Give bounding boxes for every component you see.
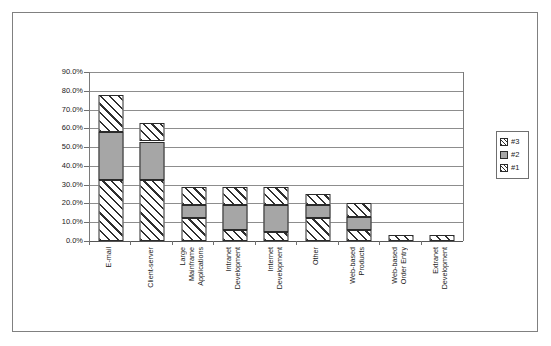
bar-slot: [256, 72, 297, 241]
bar-segment-series-3[interactable]: [430, 235, 455, 241]
legend-label: #2: [511, 151, 519, 159]
x-axis-category-label: Web-basedOrder Entry: [391, 247, 409, 331]
bar-segment-series-1[interactable]: [181, 218, 206, 241]
plot-area: [89, 72, 464, 241]
bar-slot: [380, 72, 421, 241]
x-axis-category-label: IntranetDevelopment: [225, 247, 243, 331]
y-axis-tick-label: 70.0%: [37, 106, 83, 114]
bar-slot: [297, 72, 338, 241]
bar-segment-series-3[interactable]: [347, 203, 372, 216]
x-axis-category-label: Client-server: [147, 247, 156, 331]
legend-label: #3: [511, 138, 519, 146]
bar-segment-series-1[interactable]: [140, 180, 165, 241]
y-axis-tick-label: 90.0%: [37, 68, 83, 76]
bar-segment-series-3[interactable]: [98, 95, 123, 133]
y-axis-tick-label: 50.0%: [37, 143, 83, 151]
x-axis-tick-mark: [172, 241, 173, 245]
bar-segment-series-3[interactable]: [140, 123, 165, 142]
bar-segment-series-3[interactable]: [388, 235, 413, 241]
x-axis-category-label: LargeMainframeApplications: [179, 247, 206, 331]
bar-segment-series-2[interactable]: [140, 142, 165, 180]
x-axis-label-line: Order Entry: [400, 247, 408, 284]
bar-slot: [422, 72, 463, 241]
x-axis-tick-mark: [213, 241, 214, 245]
y-axis-tick-label: 10.0%: [37, 218, 83, 226]
x-axis-label-line: Client-server: [147, 247, 155, 288]
x-axis-tick-mark: [130, 241, 131, 245]
y-axis-tick-label: 80.0%: [37, 87, 83, 95]
x-axis-label-line: Applications: [197, 247, 205, 286]
bar-segment-series-1[interactable]: [223, 230, 248, 241]
legend-swatch-icon: [500, 151, 508, 159]
gridline: [90, 241, 463, 242]
legend-label: #1: [511, 164, 519, 172]
bar-segment-series-1[interactable]: [264, 232, 289, 241]
x-axis-tick-mark: [89, 241, 90, 245]
bar-segment-series-3[interactable]: [181, 187, 206, 206]
x-axis-label-line: Web-based: [391, 247, 399, 284]
legend-swatch-icon: [500, 138, 508, 146]
y-axis-tick-label: 20.0%: [37, 199, 83, 207]
x-axis-label-line: Development: [234, 247, 242, 289]
legend-item-series-1[interactable]: #1: [500, 162, 525, 174]
bar-segment-series-3[interactable]: [305, 194, 330, 205]
x-axis-tick-mark: [296, 241, 297, 245]
x-axis-tick-mark: [338, 241, 339, 245]
x-axis-label-line: Internet: [267, 247, 275, 271]
chart-legend[interactable]: #3#2#1: [496, 131, 529, 179]
bar-segment-series-2[interactable]: [223, 205, 248, 229]
x-axis-category-label: Other: [312, 247, 321, 331]
bar-segment-series-2[interactable]: [264, 205, 289, 231]
bar-segment-series-1[interactable]: [305, 218, 330, 241]
y-axis-tick-label: 30.0%: [37, 181, 83, 189]
bar-segment-series-3[interactable]: [223, 187, 248, 206]
bar-slot: [214, 72, 255, 241]
x-axis-category-label: E-mail: [105, 247, 114, 331]
x-axis-category-label: Web-basedProducts: [349, 247, 367, 331]
x-axis-label-line: Other: [312, 247, 320, 265]
legend-item-series-3[interactable]: #3: [500, 136, 525, 148]
bar-slot: [339, 72, 380, 241]
y-axis-tick-label: 60.0%: [37, 124, 83, 132]
x-axis-tick-mark: [379, 241, 380, 245]
bar-segment-series-2[interactable]: [98, 132, 123, 180]
x-axis-category-label: ExtranetDevelopment: [432, 247, 450, 331]
bar-slot: [131, 72, 172, 241]
x-axis-tick-mark: [255, 241, 256, 245]
bar-slot: [173, 72, 214, 241]
bar-segment-series-2[interactable]: [181, 205, 206, 218]
x-axis-category-label: InternetDevelopment: [267, 247, 285, 331]
bar-segment-series-1[interactable]: [347, 230, 372, 241]
legend-swatch-icon: [500, 164, 508, 172]
x-axis-label-line: Intranet: [225, 247, 233, 271]
chart-frame: 90.0%80.0%70.0%60.0%50.0%40.0%30.0%20.0%…: [12, 12, 538, 332]
x-axis-label-line: E-mail: [105, 247, 113, 267]
bar-segment-series-2[interactable]: [347, 217, 372, 230]
bar-segment-series-1[interactable]: [98, 180, 123, 241]
x-axis-label-line: Large: [179, 247, 187, 265]
x-axis-label-line: Products: [358, 247, 366, 275]
y-axis-tick-label: 40.0%: [37, 162, 83, 170]
bar-segment-series-2[interactable]: [305, 205, 330, 218]
x-axis-label-line: Mainframe: [188, 247, 196, 281]
x-axis-label-line: Development: [441, 247, 449, 289]
y-axis-tick-label: 0.0%: [37, 237, 83, 245]
x-axis-label-line: Development: [276, 247, 284, 289]
x-axis-tick-mark: [421, 241, 422, 245]
bar-slot: [90, 72, 131, 241]
bar-segment-series-3[interactable]: [264, 187, 289, 206]
legend-item-series-2[interactable]: #2: [500, 149, 525, 161]
